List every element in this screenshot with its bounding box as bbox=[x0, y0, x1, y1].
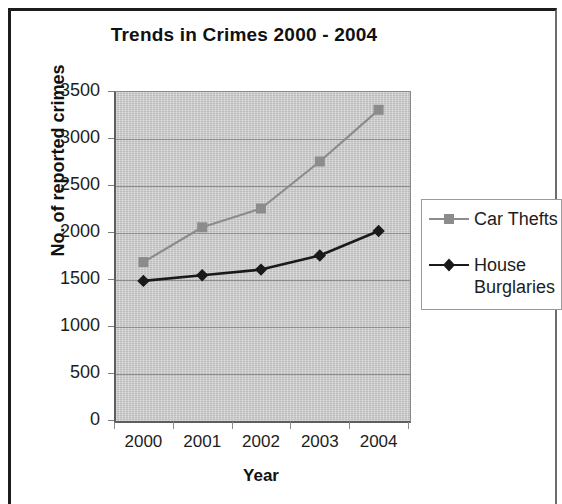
legend-swatch-diamond-icon bbox=[428, 257, 470, 273]
y-tick-mark bbox=[108, 373, 114, 374]
y-tick-mark bbox=[108, 185, 114, 186]
gridline bbox=[116, 139, 410, 140]
x-tick-label: 2002 bbox=[231, 432, 291, 452]
chart-figure: Trends in Crimes 2000 - 2004 No. of repo… bbox=[0, 0, 562, 504]
y-tick-mark bbox=[108, 138, 114, 139]
plot-area bbox=[114, 91, 411, 423]
x-tick-mark bbox=[290, 422, 291, 429]
gridline bbox=[116, 374, 410, 375]
y-tick-label: 500 bbox=[30, 362, 100, 383]
gridline bbox=[116, 327, 410, 328]
x-tick-mark bbox=[349, 422, 350, 429]
y-tick-label: 0 bbox=[30, 409, 100, 430]
x-tick-label: 2003 bbox=[290, 432, 350, 452]
x-tick-mark bbox=[114, 422, 115, 429]
y-tick-label: 1500 bbox=[30, 268, 100, 289]
y-tick-label: 3500 bbox=[30, 80, 100, 101]
y-axis-title: No. of reported crimes bbox=[48, 41, 69, 281]
y-tick-label: 2000 bbox=[30, 221, 100, 242]
x-tick-mark bbox=[173, 422, 174, 429]
x-tick-label: 2001 bbox=[172, 432, 232, 452]
y-tick-label: 2500 bbox=[30, 174, 100, 195]
y-tick-mark bbox=[108, 420, 114, 421]
y-tick-mark bbox=[108, 232, 114, 233]
chart-title: Trends in Crimes 2000 - 2004 bbox=[24, 24, 464, 46]
y-tick-mark bbox=[108, 91, 114, 92]
x-tick-mark bbox=[408, 422, 409, 429]
legend-swatch-square-icon bbox=[428, 211, 470, 227]
x-axis-title: Year bbox=[114, 466, 408, 486]
legend-label-house-burglaries: House Burglaries bbox=[474, 254, 562, 298]
y-tick-mark bbox=[108, 326, 114, 327]
y-tick-mark bbox=[108, 279, 114, 280]
legend-label-car-thefts: Car Thefts bbox=[474, 208, 558, 230]
x-tick-label: 2004 bbox=[349, 432, 409, 452]
gridline bbox=[116, 233, 410, 234]
x-tick-label: 2000 bbox=[113, 432, 173, 452]
y-tick-label: 1000 bbox=[30, 315, 100, 336]
gridline bbox=[116, 280, 410, 281]
y-tick-label: 3000 bbox=[30, 127, 100, 148]
chart-legend: Car Thefts House Burglaries bbox=[421, 199, 562, 310]
x-tick-mark bbox=[232, 422, 233, 429]
gridline bbox=[116, 186, 410, 187]
